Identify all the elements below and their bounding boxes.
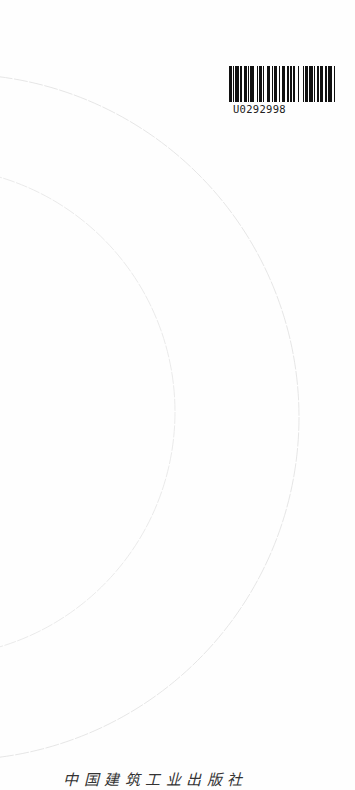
barcode-bar [335,66,336,102]
barcode-number: U0292998 [233,103,337,115]
book-back-cover: U0292998 中国建筑工业出版社 [0,0,355,790]
isbn-barcode: U0292998 [229,66,337,115]
barcode-bars [229,66,337,102]
outer-arc [0,74,299,760]
publisher-name: 中国建筑工业出版社 [63,768,248,789]
inner-arc [0,167,175,657]
decorative-arcs [0,0,355,790]
